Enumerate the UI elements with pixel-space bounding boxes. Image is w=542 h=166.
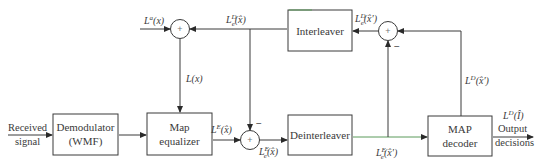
plus-sign: + xyxy=(177,24,182,34)
decoder-extrinsic-interleaved-label: LDe(x̂′) xyxy=(354,12,378,27)
map-equalizer-label: Map xyxy=(169,121,190,133)
map-decoder-block xyxy=(428,116,492,156)
map-decoder-label: MAP xyxy=(448,123,472,135)
map-equalizer-label-2: equalizer xyxy=(159,135,200,147)
map-equalizer-block xyxy=(147,113,212,155)
output-decisions-label: Output xyxy=(498,123,527,134)
equalizer-input-label: L(x) xyxy=(185,73,203,85)
final-output-label: LD(Î) xyxy=(502,109,524,122)
plus-sign: + xyxy=(247,135,252,145)
received-signal-label-2: signal xyxy=(15,136,40,147)
svg-text:LD(x̂′): LD(x̂′) xyxy=(464,74,490,87)
apriori-llr-label: La(x) xyxy=(143,14,165,27)
deinterleaver-label: Deinterleaver xyxy=(290,129,350,141)
demodulator-label: Demodulator xyxy=(56,121,114,133)
decoder-output-label: LD(x̂′) xyxy=(464,74,490,87)
minus-sign: − xyxy=(256,118,262,129)
received-signal-label: Received xyxy=(8,122,48,133)
svg-text:L(x): L(x) xyxy=(185,73,203,85)
svg-text:LDe(x̂′): LDe(x̂′) xyxy=(354,12,378,27)
equalizer-output-label: LE(x̂) xyxy=(210,123,233,136)
svg-text:LEe(x̂′): LEe(x̂′) xyxy=(375,146,398,161)
minus-sign: − xyxy=(394,41,400,52)
plus-sign: + xyxy=(385,26,390,36)
svg-text:LD(Î): LD(Î) xyxy=(502,109,524,122)
svg-text:La(x): La(x) xyxy=(143,14,165,27)
demodulator-label-2: (WMF) xyxy=(69,135,103,148)
map-decoder-label-2: decoder xyxy=(443,137,478,149)
svg-text:LDe(x̂): LDe(x̂) xyxy=(225,13,247,28)
output-decisions-label-2: decisions xyxy=(495,137,534,148)
equalizer-extrinsic-label: LEe(x̂) xyxy=(258,145,279,160)
turbo-equalizer-diagram: + + + − − Demodulator (WMF) Map equalize… xyxy=(0,0,542,166)
equalizer-extrinsic-deinterleaved-label: LEe(x̂′) xyxy=(375,146,398,161)
svg-text:LE(x̂): LE(x̂) xyxy=(210,123,233,136)
interleaver-label: Interleaver xyxy=(296,25,344,37)
decoder-extrinsic-label: LDe(x̂) xyxy=(225,13,247,28)
svg-text:LEe(x̂): LEe(x̂) xyxy=(258,145,279,160)
